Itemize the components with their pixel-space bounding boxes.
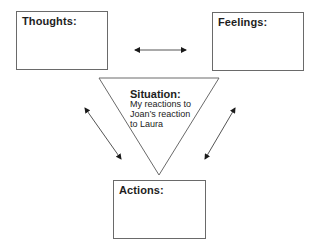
situation-line: to Laura bbox=[130, 120, 210, 130]
thoughts-box: Thoughts: bbox=[16, 11, 108, 70]
feelings-label: Feelings: bbox=[218, 16, 267, 28]
thoughts-label: Thoughts: bbox=[22, 15, 77, 27]
actions-box: Actions: bbox=[113, 180, 206, 239]
feelings-box: Feelings: bbox=[212, 12, 304, 71]
actions-label: Actions: bbox=[119, 184, 164, 196]
situation-description: My reactions to Joan’s reaction to Laura bbox=[130, 100, 210, 129]
arrow-thoughts-actions bbox=[85, 108, 121, 159]
situation-text: Situation: My reactions to Joan’s reacti… bbox=[130, 88, 210, 129]
